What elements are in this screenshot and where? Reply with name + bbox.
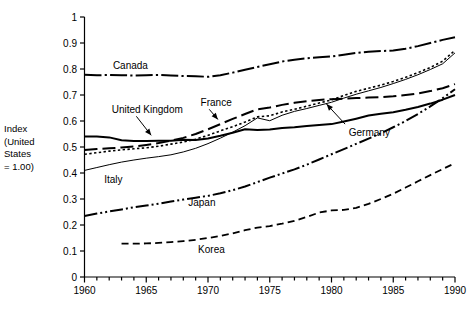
x-tick-label: 1975 [259,285,282,296]
y-tick-label: 0.3 [63,194,77,205]
x-tick-label: 1965 [135,285,158,296]
series-label-italy: Italy [104,174,122,185]
series-label-germany: Germany [349,127,390,138]
x-tick-label: 1985 [382,285,405,296]
series-label-united-kingdom: United Kingdom [112,104,183,115]
series-line-korea [122,163,455,244]
y-axis-label-line: = 1.00) [4,161,34,172]
series-label-canada: Canada [113,60,148,71]
y-axis-label-line: Index [4,123,27,134]
series-line-united-kingdom [85,95,456,141]
y-axis-label-line: States [4,148,31,159]
y-tick-label: 0.5 [63,142,77,153]
y-tick-label: 0.7 [63,90,77,101]
series-label-japan: Japan [188,197,215,208]
y-tick-label: 0.1 [63,246,77,257]
x-tick-label: 1990 [444,285,467,296]
series-label-france: France [201,97,233,108]
chart-container: 00.10.20.30.40.50.60.70.80.9119601965197… [0,0,471,311]
y-tick-label: 0.9 [63,38,77,49]
annotation-arrow-france [209,109,218,119]
annotation-arrow-germany [327,104,346,124]
y-tick-label: 0.6 [63,116,77,127]
y-tick-label: 1 [71,12,77,23]
x-tick-label: 1980 [320,285,343,296]
line-chart: 00.10.20.30.40.50.60.70.80.9119601965197… [0,0,471,311]
series-line-canada [85,37,456,77]
series-label-korea: Korea [198,244,225,255]
x-tick-label: 1960 [73,285,96,296]
y-tick-label: 0 [71,272,77,283]
y-tick-label: 0.8 [63,64,77,75]
arrow-head [145,129,151,136]
y-tick-label: 0.2 [63,220,77,231]
y-tick-label: 0.4 [63,168,77,179]
y-axis-label-line: (United [4,136,35,147]
x-tick-label: 1970 [197,285,220,296]
annotation-arrow-united-kingdom [136,116,151,135]
